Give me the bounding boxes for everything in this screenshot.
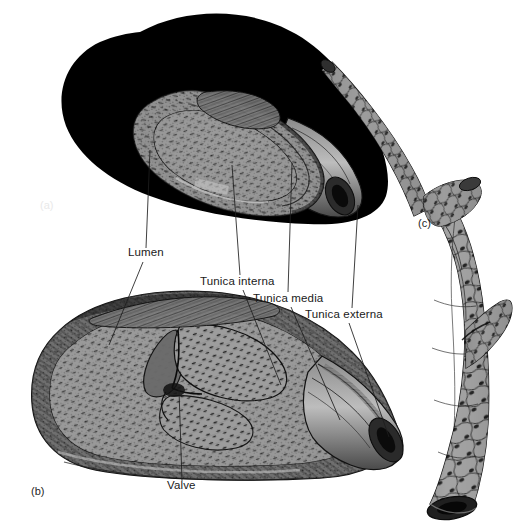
label-tunica-media: Tunica media: [253, 293, 323, 305]
label-tunica-interna: Tunica interna: [200, 276, 275, 288]
blood-vessel-figure: Lumen Tunica interna Tunica media Tunica…: [0, 0, 513, 531]
label-lumen: Lumen: [128, 247, 164, 259]
panel-tag-a: (a): [40, 200, 53, 211]
label-valve: Valve: [167, 480, 196, 492]
panel-tag-b: (b): [31, 486, 44, 497]
figure-artwork: [0, 0, 513, 531]
panel-tag-c: (c): [418, 218, 431, 229]
label-tunica-externa: Tunica externa: [305, 309, 383, 321]
